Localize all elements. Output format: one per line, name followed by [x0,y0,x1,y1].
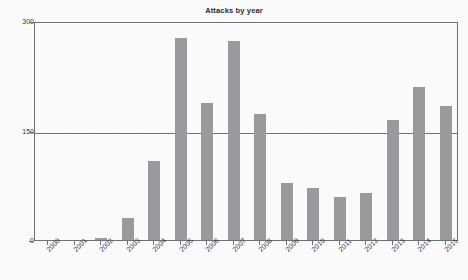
bars-layer [35,23,457,240]
bar-2014[interactable] [413,87,425,240]
bar-2003[interactable] [122,218,134,240]
bar-2011[interactable] [334,197,346,240]
bar-2015[interactable] [440,106,452,240]
bar-2007[interactable] [228,41,240,240]
bar-2006[interactable] [201,103,213,240]
bar-chart: Attacks by year 0150300 2000200120022003… [0,0,468,280]
bar-2008[interactable] [254,114,266,240]
x-axis: 2000200120022003200420052006200720082009… [34,241,458,280]
bar-2009[interactable] [281,183,293,240]
bar-2005[interactable] [175,38,187,240]
bar-2010[interactable] [307,188,319,240]
plot-area [34,22,458,241]
bar-2004[interactable] [148,161,160,240]
chart-title: Attacks by year [0,6,468,15]
bar-2013[interactable] [387,120,399,240]
y-axis: 0150300 [0,0,34,280]
bar-2012[interactable] [360,193,372,240]
